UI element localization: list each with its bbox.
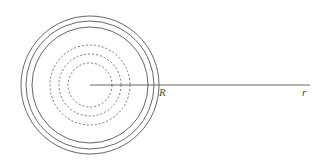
figure-container: R r	[0, 0, 315, 164]
radial-axis-label: r	[302, 87, 306, 98]
concentric-circles-diagram	[0, 0, 315, 164]
outer-radius-label: R	[159, 87, 166, 98]
